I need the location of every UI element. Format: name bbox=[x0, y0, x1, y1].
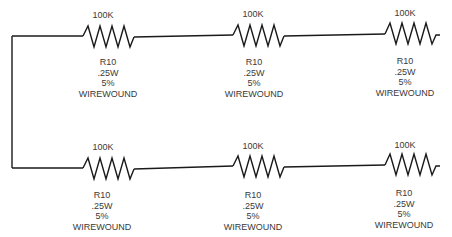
resistor-top-1-value: 100K bbox=[92, 10, 113, 20]
resistor-bottom-3-icon bbox=[385, 154, 440, 175]
resistor-power: .25W bbox=[224, 201, 283, 212]
resistor-bottom-1-specs: R10 .25W 5% WIREWOUND bbox=[73, 190, 132, 232]
resistor-ref: R10 bbox=[375, 188, 434, 199]
resistor-bottom-2-value: 100K bbox=[242, 141, 263, 151]
resistor-bottom-2-specs: R10 .25W 5% WIREWOUND bbox=[224, 190, 283, 232]
resistor-tolerance: 5% bbox=[376, 77, 435, 88]
resistor-top-2-icon bbox=[233, 25, 284, 46]
resistor-type: WIREWOUND bbox=[224, 222, 283, 233]
resistor-bottom-1-icon bbox=[83, 158, 134, 179]
resistor-type: WIREWOUND bbox=[73, 222, 132, 233]
resistor-ref: R10 bbox=[225, 57, 284, 68]
resistor-ref: R10 bbox=[73, 190, 132, 201]
resistor-top-3-icon bbox=[385, 23, 440, 44]
resistor-power: .25W bbox=[375, 199, 434, 210]
wire-bottom-mid-2 bbox=[284, 165, 385, 167]
resistor-ref: R10 bbox=[376, 56, 435, 67]
resistor-ref: R10 bbox=[79, 57, 138, 68]
resistor-bottom-2-icon bbox=[233, 156, 284, 177]
resistor-ref: R10 bbox=[224, 190, 283, 201]
resistor-tolerance: 5% bbox=[224, 211, 283, 222]
resistor-bottom-3-specs: R10 .25W 5% WIREWOUND bbox=[375, 188, 434, 230]
resistor-power: .25W bbox=[225, 68, 284, 79]
resistor-type: WIREWOUND bbox=[375, 220, 434, 231]
resistor-top-1-icon bbox=[83, 26, 134, 47]
resistor-tolerance: 5% bbox=[225, 78, 284, 89]
resistor-power: .25W bbox=[376, 67, 435, 78]
resistor-top-2-value: 100K bbox=[242, 9, 263, 19]
resistor-tolerance: 5% bbox=[375, 209, 434, 220]
resistor-type: WIREWOUND bbox=[225, 89, 284, 100]
wire-top-mid-2 bbox=[284, 34, 385, 36]
resistor-tolerance: 5% bbox=[73, 211, 132, 222]
resistor-power: .25W bbox=[79, 68, 138, 79]
wire-bottom-mid-1 bbox=[134, 166, 233, 169]
resistor-top-1-specs: R10 .25W 5% WIREWOUND bbox=[79, 57, 138, 99]
resistor-type: WIREWOUND bbox=[79, 89, 138, 100]
resistor-bottom-1-value: 100K bbox=[92, 142, 113, 152]
resistor-power: .25W bbox=[73, 201, 132, 212]
resistor-top-3-specs: R10 .25W 5% WIREWOUND bbox=[376, 56, 435, 98]
wire-top-mid-1 bbox=[134, 35, 233, 37]
resistor-top-2-specs: R10 .25W 5% WIREWOUND bbox=[225, 57, 284, 99]
resistor-top-3-value: 100K bbox=[394, 8, 415, 18]
resistor-tolerance: 5% bbox=[79, 78, 138, 89]
resistor-type: WIREWOUND bbox=[376, 88, 435, 99]
resistor-bottom-3-value: 100K bbox=[394, 140, 415, 150]
